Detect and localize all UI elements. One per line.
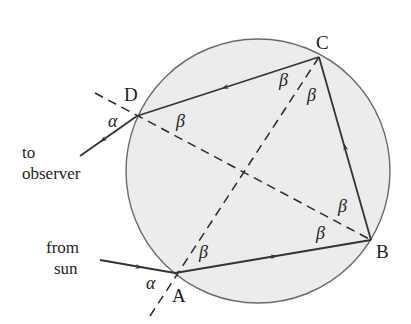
beta-label-A: β — [198, 242, 208, 262]
point-label-A: A — [172, 285, 186, 306]
to-observer-label-line1: to — [22, 143, 35, 162]
point-label-C: C — [316, 32, 329, 53]
beta-label-C-right: β — [306, 85, 316, 105]
to-observer-label-line2: observer — [22, 164, 81, 183]
beta-label-C-left: β — [278, 70, 288, 90]
from-sun-label-line1: from — [46, 238, 79, 257]
point-label-B: B — [376, 241, 389, 262]
beta-label-D: β — [175, 111, 185, 131]
rainbow-droplet-diagram: D C B A α β β β β β β α to observer from… — [0, 0, 411, 324]
from-sun-label-line2: sun — [54, 259, 78, 278]
point-label-D: D — [124, 84, 138, 105]
water-droplet-circle — [126, 39, 390, 303]
alpha-label-A: α — [146, 273, 156, 293]
beta-label-B-upper: β — [337, 196, 347, 216]
alpha-label-D: α — [108, 111, 118, 131]
beta-label-B-lower: β — [315, 223, 325, 243]
